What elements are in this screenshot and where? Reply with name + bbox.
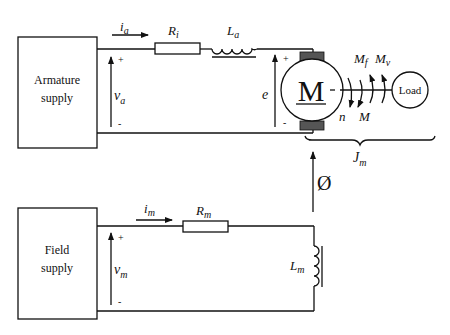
inertia-brace [305, 136, 435, 145]
resistor-rm [183, 221, 228, 232]
armature-circuit: Armature supply ia Ri La + - va + - e [18, 19, 313, 148]
va-minus: - [118, 118, 121, 129]
vm-plus: + [118, 232, 124, 243]
field-supply-label-2: supply [41, 261, 73, 275]
inductor-la-label: La [226, 23, 239, 40]
motor-label: M [298, 74, 325, 107]
torque-m-label: M [358, 109, 371, 124]
torque-m-arrow [358, 80, 362, 107]
e-plus: + [283, 53, 289, 64]
speed-n-label: n [339, 109, 346, 124]
e-minus: - [283, 117, 286, 128]
viscous-torque-arrow [382, 75, 385, 103]
emf-e-label: e [262, 87, 268, 102]
speed-n-arrow [348, 78, 352, 107]
current-im-label: im [144, 201, 155, 218]
load-label: Load [399, 84, 422, 96]
brush-bottom [300, 121, 324, 130]
vm-minus: - [118, 296, 121, 307]
current-ia-label: ia [120, 19, 129, 36]
field-circuit: Field supply im Rm + - vm Lm [18, 201, 322, 319]
field-supply-label-1: Field [45, 243, 70, 257]
armature-supply-label-1: Armature [34, 73, 80, 87]
circuit-diagram: Armature supply ia Ri La + - va + - e [0, 0, 450, 335]
voltage-vm-label: vm [114, 262, 127, 280]
resistor-ri-label: Ri [167, 23, 179, 40]
resistor-rm-label: Rm [195, 203, 211, 220]
va-plus: + [118, 54, 124, 65]
inertia-jm-label: Jm [353, 150, 366, 168]
inductor-lm [314, 246, 319, 286]
motor: M n M Mf Mv Load Jm [281, 51, 435, 168]
voltage-va-label: va [114, 88, 125, 106]
flux-label: Ø [317, 172, 331, 194]
viscous-torque-label: Mv [374, 51, 391, 68]
resistor-ri [155, 43, 200, 54]
friction-torque-label: Mf [353, 51, 369, 68]
armature-supply-label-2: supply [41, 91, 73, 105]
inductor-la [212, 49, 257, 54]
friction-torque-arrow [370, 75, 373, 103]
inductor-lm-label: Lm [289, 258, 304, 275]
